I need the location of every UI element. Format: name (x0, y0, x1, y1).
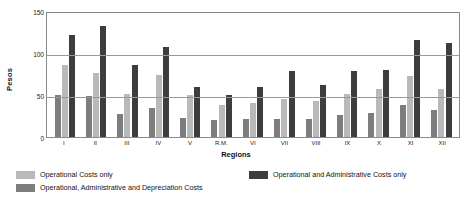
bar-group (112, 13, 143, 137)
bar (93, 73, 99, 137)
x-axis-ticks: IIIIIIIVVR.M.VIVIIVIIIIXXXIXII (46, 140, 460, 146)
bar (250, 103, 256, 137)
bar-group (394, 13, 425, 137)
bar (281, 99, 287, 137)
chart-legend: Operational Costs only Operational, Admi… (0, 164, 472, 206)
bar-chart-figure: Pesos 050100150 IIIIIIIVVR.M.VIVIIVIIIIX… (0, 0, 472, 206)
bar-group (269, 13, 300, 137)
x-tick-label: VI (237, 140, 269, 146)
legend-item-operational-admin-depreciation: Operational, Administrative and Deprecia… (16, 183, 203, 192)
bar-group (49, 13, 80, 137)
bar (306, 119, 312, 137)
bar (289, 71, 295, 137)
legend-label-operational-admin: Operational and Administrative Costs onl… (273, 170, 406, 179)
x-tick-label: R.M. (206, 140, 238, 146)
gridline (47, 55, 459, 56)
bar (55, 95, 61, 137)
legend-swatch-operational-admin (249, 171, 268, 179)
y-tick-label: 0 (18, 135, 44, 142)
bar (446, 43, 452, 137)
bar-group (80, 13, 111, 137)
x-tick-label: IV (143, 140, 175, 146)
bar (313, 101, 319, 137)
bar (351, 71, 357, 137)
bar (180, 118, 186, 137)
legend-item-operational-admin: Operational and Administrative Costs onl… (249, 170, 406, 179)
y-tick-label: 50 (18, 93, 44, 100)
bar (320, 85, 326, 137)
x-tick-label: II (80, 140, 112, 146)
bar (149, 108, 155, 137)
legend-item-operational: Operational Costs only (16, 170, 113, 179)
bar (431, 110, 437, 137)
bar (62, 65, 68, 137)
bar-group (426, 13, 457, 137)
bar (86, 96, 92, 137)
bar (243, 119, 249, 137)
chart-area: Pesos 050100150 IIIIIIIVVR.M.VIVIIVIIIIX… (0, 0, 472, 150)
bar (337, 115, 343, 137)
plot-area (46, 12, 460, 138)
bar (156, 75, 162, 137)
bar (194, 87, 200, 137)
x-tick-label: IX (332, 140, 364, 146)
bar (383, 70, 389, 137)
x-tick-label: III (111, 140, 143, 146)
x-axis-title: Regions (0, 150, 472, 159)
legend-label-operational: Operational Costs only (40, 170, 113, 179)
legend-label-operational-admin-depreciation: Operational, Administrative and Deprecia… (40, 183, 203, 192)
bar-group (175, 13, 206, 137)
x-tick-label: XI (395, 140, 427, 146)
legend-swatch-operational-admin-depreciation (16, 184, 35, 192)
x-tick-label: XII (426, 140, 458, 146)
bar-group (300, 13, 331, 137)
bar-group (332, 13, 363, 137)
bar (226, 95, 232, 137)
bar (400, 105, 406, 137)
x-tick-label: VII (269, 140, 301, 146)
bar (100, 26, 106, 137)
x-tick-label: I (48, 140, 80, 146)
bar (274, 119, 280, 137)
y-tick-label: 150 (18, 9, 44, 16)
bar-group (206, 13, 237, 137)
y-axis-ticks: 050100150 (12, 0, 44, 150)
gridline (47, 97, 459, 98)
y-tick-label: 100 (18, 51, 44, 58)
bar (124, 94, 130, 137)
x-tick-label: X (363, 140, 395, 146)
bar (187, 95, 193, 137)
bar (368, 113, 374, 137)
bar-group (363, 13, 394, 137)
x-tick-label: V (174, 140, 206, 146)
x-tick-label: VIII (300, 140, 332, 146)
bar (211, 120, 217, 137)
legend-swatch-operational (16, 171, 35, 179)
bar (257, 87, 263, 137)
bar (407, 76, 413, 137)
bar-group (143, 13, 174, 137)
bar (344, 94, 350, 137)
bar (163, 47, 169, 137)
bar (117, 114, 123, 137)
bar (219, 105, 225, 137)
bar-group (237, 13, 268, 137)
bar (69, 35, 75, 137)
bar (132, 65, 138, 137)
bar-groups (47, 13, 459, 137)
